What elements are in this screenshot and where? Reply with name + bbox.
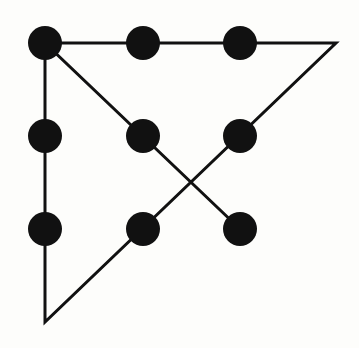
solution-line-path [45,43,336,322]
dot-7 [28,212,62,246]
dot-4 [28,119,62,153]
dot-3 [223,26,257,60]
dot-9 [223,212,257,246]
dot-1 [28,26,62,60]
dot-6 [223,119,257,153]
dot-2 [126,26,160,60]
dot-8 [126,212,160,246]
dot-5 [126,119,160,153]
nine-dots-diagram [0,0,359,348]
